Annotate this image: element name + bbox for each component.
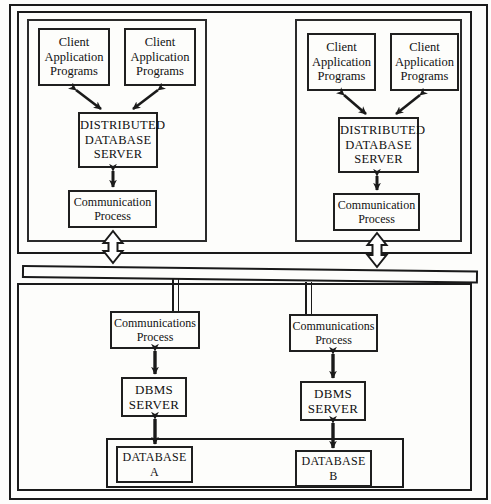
database-b-box[interactable]: DATABASE B: [295, 450, 372, 487]
dbms-box-line: DBMS: [125, 382, 183, 397]
database-box-line: A: [120, 465, 189, 479]
database-box-line: DATABASE: [120, 450, 189, 464]
dbms-box-line: DBMS: [304, 386, 362, 401]
dbms-server-box[interactable]: DBMS SERVER: [121, 377, 187, 417]
communications-process-box[interactable]: Communications Process: [289, 314, 378, 352]
client-box-line: Client: [128, 35, 192, 50]
client-application-programs-box[interactable]: Client Application Programs: [307, 33, 376, 91]
client-application-programs-box[interactable]: Client Application Programs: [38, 28, 110, 86]
communications-process-box[interactable]: Communications Process: [110, 311, 200, 349]
comm-box-line: Communication: [337, 198, 416, 212]
distributed-database-server-box[interactable]: DISTRIBUTED DATABASE SERVER: [338, 117, 419, 173]
client-box-line: Application: [128, 50, 192, 65]
comm-box-line: Process: [293, 333, 375, 347]
diagram-canvas: Client Application Programs Client Appli…: [0, 0, 491, 504]
client-box-line: Application: [394, 55, 455, 70]
dbms-server-box[interactable]: DBMS SERVER: [300, 381, 366, 421]
server-box-line: DISTRIBUTED: [80, 118, 156, 133]
bus-drop-connector-right: [305, 282, 312, 315]
client-application-programs-box[interactable]: Client Application Programs: [390, 33, 459, 91]
server-box-line: SERVER: [340, 152, 417, 167]
bus-drop-connector-left: [172, 279, 179, 312]
client-box-line: Programs: [311, 69, 372, 84]
dbms-box-line: SERVER: [125, 397, 183, 412]
client-box-line: Client: [311, 40, 372, 55]
comm-box-line: Process: [337, 212, 416, 226]
comm-box-line: Process: [72, 209, 153, 223]
server-box-line: DATABASE: [80, 133, 156, 148]
client-application-programs-box[interactable]: Client Application Programs: [124, 28, 196, 86]
client-box-line: Client: [42, 35, 106, 50]
database-box-line: B: [299, 469, 368, 483]
distributed-database-server-box[interactable]: DISTRIBUTED DATABASE SERVER: [78, 112, 158, 168]
communication-process-box[interactable]: Communication Process: [333, 193, 420, 231]
comm-box-line: Process: [114, 330, 196, 344]
dbms-box-line: SERVER: [304, 401, 362, 416]
client-box-line: Programs: [128, 64, 192, 79]
client-box-line: Programs: [42, 64, 106, 79]
client-box-line: Programs: [394, 69, 455, 84]
client-box-line: Application: [311, 55, 372, 70]
server-box-line: SERVER: [80, 147, 156, 162]
comm-box-line: Communication: [72, 195, 153, 209]
client-box-line: Application: [42, 50, 106, 65]
client-box-line: Client: [394, 40, 455, 55]
server-box-line: DISTRIBUTED: [340, 123, 417, 138]
server-box-line: DATABASE: [340, 138, 417, 153]
communication-process-box[interactable]: Communication Process: [68, 190, 157, 228]
database-box-line: DATABASE: [299, 454, 368, 468]
database-a-box[interactable]: DATABASE A: [116, 446, 193, 483]
comm-box-line: Communications: [114, 316, 196, 330]
comm-box-line: Communications: [293, 319, 375, 333]
